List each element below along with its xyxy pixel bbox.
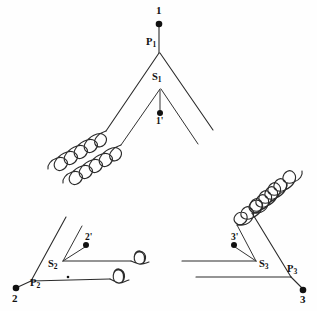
transformer-diagram-canvas: 1 2 3 1' 2' 3' P1 P2 P3 S1 S2 S3 <box>0 0 317 311</box>
label-terminal-1-prime: 1' <box>156 117 163 127</box>
primary-edge-p3-to-right-coil <box>252 213 291 277</box>
primary-winding-right-coil <box>249 171 302 213</box>
label-terminal-1: 1 <box>156 5 162 16</box>
label-terminal-2: 2 <box>12 293 18 304</box>
secondary-edge-right-coil-to-s1 <box>161 89 198 144</box>
primary-edge-p1-to-left-coil <box>106 53 159 131</box>
label-terminal-3-prime: 3' <box>231 233 238 243</box>
primary-rail-p2-to-bottom-coil <box>31 279 110 281</box>
label-terminal-3: 3 <box>300 294 306 305</box>
label-node-p3: P3 <box>287 264 297 275</box>
label-node-p1: P1 <box>146 37 156 48</box>
label-node-p1-subscript: 1 <box>152 40 156 49</box>
terminal-dot-2-prime[interactable] <box>83 242 89 248</box>
primary-edge-left-coil-to-p2 <box>31 217 66 281</box>
rail-tick-mark <box>67 276 70 279</box>
label-node-p2-subscript: 2 <box>36 281 40 290</box>
terminal-dot-1[interactable] <box>156 21 163 28</box>
label-node-s3: S3 <box>259 259 269 270</box>
lead-p3-to-terminal3 <box>291 277 302 288</box>
label-node-p3-subscript: 3 <box>293 267 297 276</box>
label-node-s1-subscript: 1 <box>158 75 162 84</box>
secondary-edge-s1-to-left-coil <box>121 89 160 145</box>
primary-winding-left-coil <box>48 131 107 171</box>
primary-winding-bottom-coil <box>110 269 129 283</box>
label-node-p2: P2 <box>30 278 40 289</box>
secondary-winding-right-coil <box>234 183 287 225</box>
label-node-s1: S1 <box>152 72 162 83</box>
terminal-dot-3-prime[interactable] <box>231 242 237 248</box>
label-node-s2: S2 <box>48 259 58 270</box>
label-node-s2-subscript: 2 <box>54 262 58 271</box>
secondary-edge-left-coil-to-s2 <box>63 226 82 261</box>
secondary-edge-s3-to-right-coil <box>237 225 256 261</box>
label-terminal-2-prime: 2' <box>85 233 92 243</box>
secondary-winding-bottom-coil <box>131 251 149 264</box>
terminal-dot-2[interactable] <box>13 285 20 292</box>
label-node-s3-subscript: 3 <box>265 262 269 271</box>
primary-edge-right-coil-to-p1 <box>160 53 213 130</box>
